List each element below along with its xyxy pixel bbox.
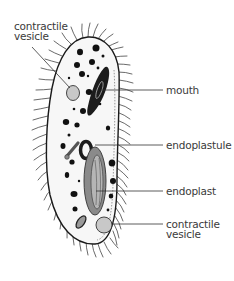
- label-mouth: mouth: [166, 85, 199, 95]
- label-line: vesicle: [14, 31, 68, 41]
- label-endoplast: endoplast: [166, 186, 216, 196]
- label-contractile-vesicle-top: contractile vesicle: [14, 21, 68, 41]
- label-contractile-vesicle-bottom: contractile vesicle: [166, 219, 220, 239]
- endoplast-shape: [84, 147, 106, 215]
- label-line: mouth: [166, 85, 199, 95]
- label-line: endoplast: [166, 186, 216, 196]
- label-line: endoplastule: [166, 140, 231, 150]
- contractile-vesicle-top-shape: [67, 86, 80, 101]
- cell-body: [46, 37, 119, 244]
- label-endoplastule: endoplastule: [166, 140, 231, 150]
- contractile-vesicle-bottom-shape: [96, 217, 112, 233]
- label-line: vesicle: [166, 229, 220, 239]
